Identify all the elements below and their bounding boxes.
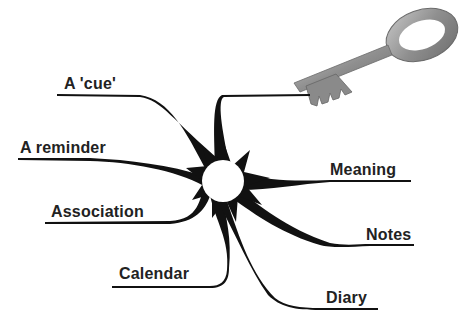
mind-map-canvas [0, 0, 471, 323]
label-reminder: A reminder [20, 140, 106, 156]
label-notes: Notes [366, 227, 411, 243]
label-cue: A 'cue' [64, 76, 116, 92]
label-diary: Diary [326, 290, 367, 306]
branch-reminder [18, 158, 204, 186]
label-association: Association [51, 204, 144, 220]
key-icon [294, 0, 465, 106]
central-node [202, 160, 244, 202]
branches [18, 94, 414, 310]
branch-key [214, 94, 310, 166]
label-meaning: Meaning [330, 162, 396, 178]
label-calendar: Calendar [119, 266, 189, 282]
